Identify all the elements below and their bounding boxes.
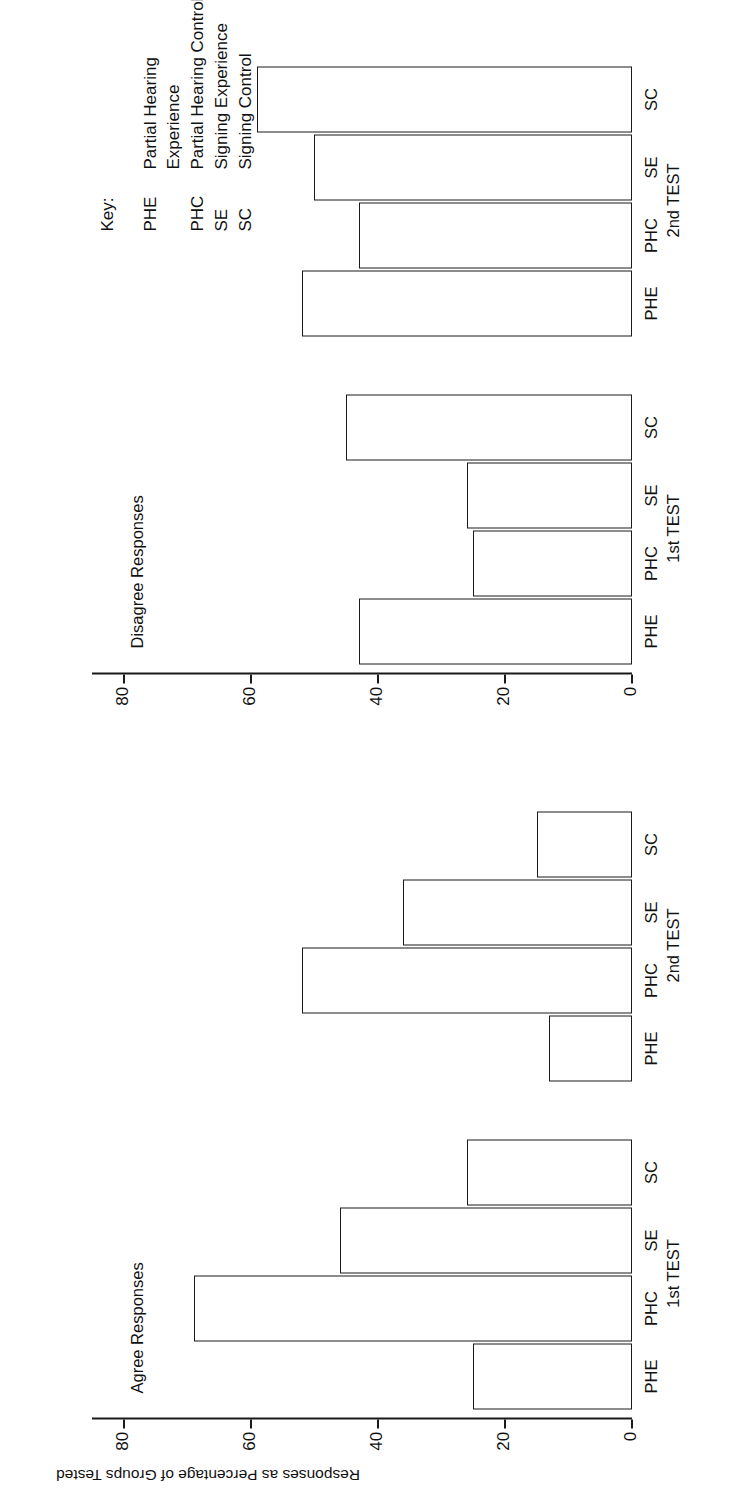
group-label: 1st TEST: [664, 392, 683, 664]
y-axis-tick-label: 0: [621, 686, 641, 726]
bar: [537, 811, 632, 877]
y-axis-tick: [250, 674, 252, 683]
bar: [302, 947, 632, 1013]
y-axis-tick: [504, 1419, 506, 1428]
y-axis-tick: [123, 674, 125, 683]
bar: [467, 462, 632, 528]
bar: [473, 1343, 632, 1409]
y-axis-tick-label: 60: [240, 686, 260, 726]
group-label: 2nd TEST: [664, 64, 683, 336]
legend-label-line: Experience: [162, 0, 185, 169]
y-axis-tick-label: 40: [367, 1431, 387, 1471]
bar: [473, 530, 632, 596]
category-label: SC: [642, 394, 661, 460]
y-axis-tick: [631, 1419, 633, 1428]
legend-row: SCSigning Control: [234, 0, 258, 231]
y-axis-tick: [377, 1419, 379, 1428]
y-axis-tick-label: 20: [494, 686, 514, 726]
legend-label-line: Partial Hearing: [139, 0, 162, 169]
legend-label: Signing Control: [234, 0, 258, 169]
legend-key-table: PHEPartial HearingExperiencePHCPartial H…: [139, 0, 258, 231]
bar: [257, 66, 632, 132]
category-label: PHC: [642, 202, 661, 268]
category-label: PHE: [642, 1343, 661, 1409]
legend-label: Partial Hearing Control: [186, 0, 210, 169]
legend-row: SESigning Experience: [210, 0, 234, 231]
category-label: PHE: [642, 1015, 661, 1081]
legend-key: Key: PHEPartial HearingExperiencePHCPart…: [96, 0, 258, 231]
legend-abbr: SE: [210, 169, 234, 231]
y-axis-tick-label: 40: [367, 686, 387, 726]
category-label: SC: [642, 66, 661, 132]
bar: [346, 394, 632, 460]
y-axis-tick: [504, 674, 506, 683]
bar: [314, 134, 632, 200]
chart-panel-agree: Agree Responses Responses as Percentage …: [0, 769, 738, 1489]
plot-area-agree: 020406080PHEPHCSESCPHEPHCSESC1st TEST2nd…: [92, 789, 632, 1419]
category-label: PHC: [642, 1275, 661, 1341]
category-label: SE: [642, 134, 661, 200]
legend-key-heading: Key:: [96, 0, 119, 231]
group-label: 2nd TEST: [664, 809, 683, 1081]
y-axis-tick: [631, 674, 633, 683]
category-label: SE: [642, 462, 661, 528]
category-label: SE: [642, 1207, 661, 1273]
y-axis-tick: [250, 1419, 252, 1428]
bar: [403, 879, 632, 945]
y-axis-tick-label: 0: [621, 1431, 641, 1471]
bar: [194, 1275, 632, 1341]
category-label: PHE: [642, 270, 661, 336]
y-axis-tick: [377, 674, 379, 683]
legend-abbr: PHC: [186, 169, 210, 231]
category-label: PHE: [642, 598, 661, 664]
bar: [340, 1207, 632, 1273]
category-label: PHC: [642, 947, 661, 1013]
bar: [302, 270, 632, 336]
legend-label: Partial HearingExperience: [139, 0, 186, 169]
figure-canvas: Agree Responses Responses as Percentage …: [0, 0, 738, 1489]
legend-row: PHEPartial HearingExperience: [139, 0, 186, 231]
category-label: SC: [642, 811, 661, 877]
category-label: SE: [642, 879, 661, 945]
legend-row: PHCPartial Hearing Control: [186, 0, 210, 231]
legend-label: Signing Experience: [210, 0, 234, 169]
y-axis-tick-label: 80: [113, 1431, 133, 1471]
category-label: PHC: [642, 530, 661, 596]
legend-abbr: PHE: [139, 169, 186, 231]
y-axis-tick-label: 60: [240, 1431, 260, 1471]
category-label: SC: [642, 1139, 661, 1205]
legend-abbr: SC: [234, 169, 258, 231]
bar: [359, 598, 632, 664]
y-axis-tick: [123, 1419, 125, 1428]
bar: [359, 202, 632, 268]
y-axis-tick-label: 80: [113, 686, 133, 726]
bar: [549, 1015, 632, 1081]
y-axis-title: Responses as Percentage of Groups Tested: [56, 1465, 360, 1483]
bar: [467, 1139, 632, 1205]
group-label: 1st TEST: [664, 1137, 683, 1409]
y-axis-tick-label: 20: [494, 1431, 514, 1471]
